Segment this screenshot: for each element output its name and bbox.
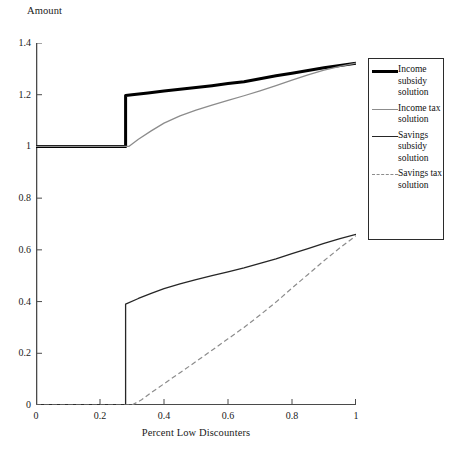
x-tick-label: 0.2	[85, 411, 115, 421]
y-tick-label: 0.6	[5, 245, 31, 255]
x-tick-label: 0	[21, 411, 51, 421]
x-tick-label: 0.6	[213, 411, 243, 421]
plot-svg	[36, 43, 356, 405]
x-tick-label: 0.4	[149, 411, 179, 421]
legend-item-label: Savings subsidy solution	[398, 130, 443, 165]
plot-area	[36, 43, 356, 405]
legend-line-swatch-icon	[372, 65, 398, 77]
y-tick-label: 0.8	[5, 193, 31, 203]
y-tick-label: 0.2	[5, 348, 31, 358]
series-line-1	[36, 63, 356, 146]
series-line-3	[36, 236, 356, 405]
chart-title	[110, 0, 360, 2]
series-line-0	[36, 63, 356, 146]
y-tick-label: 0	[5, 400, 31, 410]
y-tick-label: 1.4	[5, 38, 31, 48]
y-tick-label: 1.2	[5, 90, 31, 100]
legend-line-swatch-icon	[372, 169, 398, 181]
y-tick-label: 0.4	[5, 297, 31, 307]
legend-item-label: Income subsidy solution	[398, 64, 443, 99]
series-line-2	[36, 234, 356, 405]
legend-line-swatch-icon	[372, 131, 398, 143]
x-axis-title: Percent Low Discounters	[36, 427, 356, 438]
chart-legend: Income subsidy solutionIncome tax soluti…	[368, 58, 444, 240]
x-tick-label: 0.8	[277, 411, 307, 421]
legend-item[interactable]: Income subsidy solution	[369, 64, 443, 99]
legend-item[interactable]: Savings subsidy solution	[369, 130, 443, 165]
legend-line-swatch-icon	[372, 104, 398, 116]
x-tick-label: 1	[341, 411, 371, 421]
legend-item-label: Savings tax solution	[398, 168, 443, 191]
legend-item[interactable]: Income tax solution	[369, 103, 443, 126]
chart-figure: Amount 00.20.40.60.811.21.400.20.40.60.8…	[0, 0, 449, 459]
legend-item[interactable]: Savings tax solution	[369, 168, 443, 191]
legend-item-label: Income tax solution	[398, 103, 443, 126]
y-tick-label: 1	[5, 141, 31, 151]
y-axis-title: Amount	[27, 5, 62, 16]
